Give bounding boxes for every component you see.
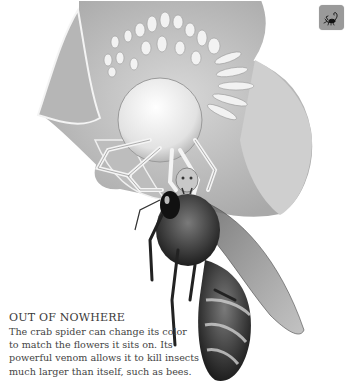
caption-title: OUT OF NOWHERE xyxy=(9,311,209,324)
caption-line: powerful venom allows it to kill insects xyxy=(9,352,199,363)
caption-line: much larger than itself, such as bees. xyxy=(9,366,191,377)
scorpion-icon xyxy=(323,10,341,26)
caption-line: to match the flowers it sits on. Its xyxy=(9,339,173,350)
scorpion-button[interactable] xyxy=(319,5,344,30)
caption-line: The crab spider can change its color xyxy=(9,326,187,337)
caption-body: The crab spider can change its color to … xyxy=(9,325,209,378)
caption: OUT OF NOWHERE The crab spider can chang… xyxy=(9,311,209,378)
